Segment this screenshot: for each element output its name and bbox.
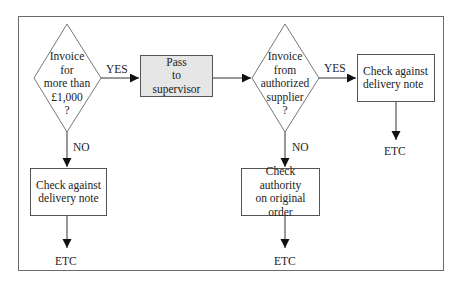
d1-no-label: NO — [73, 141, 90, 153]
check-delivery-note-box-right: Check against delivery note — [357, 54, 435, 102]
decision-2-text: Invoice from authorized supplier ? — [252, 50, 318, 118]
check-authority-box: Check authority on original order — [241, 168, 320, 216]
check-delivery-note-box-left: Check against delivery note — [30, 168, 107, 216]
pass-to-supervisor-box: Pass to supervisor — [140, 55, 213, 97]
decision-1-text: Invoice for more than £1,000 ? — [37, 50, 97, 118]
etc-right: ETC — [384, 145, 406, 157]
d1-yes-label: YES — [106, 63, 128, 75]
flowchart-canvas: Invoice for more than £1,000 ? Invoice f… — [0, 0, 461, 298]
etc-middle: ETC — [274, 255, 296, 267]
etc-left: ETC — [55, 255, 77, 267]
d2-yes-label: YES — [324, 62, 346, 74]
d2-no-label: NO — [292, 141, 309, 153]
